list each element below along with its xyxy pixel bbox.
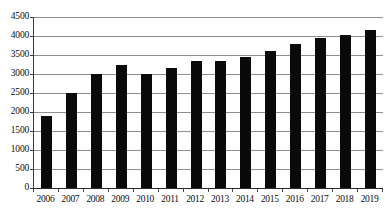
bar xyxy=(116,65,127,189)
x-tick-label: 2012 xyxy=(182,193,208,205)
x-tickmark xyxy=(158,189,159,192)
y-tick-label: 3500 xyxy=(0,50,29,60)
bar xyxy=(315,38,326,188)
y-axis: 050010001500200025003000350040004500 xyxy=(0,0,31,209)
bar xyxy=(41,116,52,188)
x-tickmark xyxy=(282,189,283,192)
y-tick-label: 500 xyxy=(0,164,29,174)
bar xyxy=(66,93,77,188)
x-tickmark xyxy=(307,189,308,192)
y-tick-label: 4500 xyxy=(0,12,29,22)
bar xyxy=(240,57,251,188)
y-tick-label: 2500 xyxy=(0,88,29,98)
x-tick-label: 2019 xyxy=(357,193,383,205)
bars-series xyxy=(34,17,383,188)
x-tickmark xyxy=(33,189,34,192)
x-tick-label: 2016 xyxy=(282,193,308,205)
bar xyxy=(191,61,202,188)
x-tick-label: 2014 xyxy=(232,193,258,205)
bar xyxy=(215,61,226,188)
x-tick-label: 2017 xyxy=(307,193,333,205)
x-tick-label: 2006 xyxy=(32,193,58,205)
x-tick-label: 2013 xyxy=(207,193,233,205)
x-tickmark xyxy=(208,189,209,192)
x-tickmark xyxy=(58,189,59,192)
x-tick-label: 2015 xyxy=(257,193,283,205)
x-tickmark xyxy=(133,189,134,192)
x-tickmark xyxy=(108,189,109,192)
y-tick-label: 0 xyxy=(0,183,29,193)
plot-area xyxy=(33,17,382,188)
x-tickmark xyxy=(332,189,333,192)
x-tickmark xyxy=(257,189,258,192)
chart-title xyxy=(0,0,385,5)
bar-chart-figure: 050010001500200025003000350040004500 200… xyxy=(0,0,385,209)
bar xyxy=(290,44,301,188)
x-tickmark xyxy=(83,189,84,192)
x-axis: 2006200720082009201020112012201320142015… xyxy=(33,193,385,207)
x-tick-label: 2008 xyxy=(82,193,108,205)
x-tickmark xyxy=(183,189,184,192)
y-tick-label: 1000 xyxy=(0,145,29,155)
x-tick-label: 2009 xyxy=(107,193,133,205)
x-tick-label: 2010 xyxy=(132,193,158,205)
bar xyxy=(91,74,102,188)
bar xyxy=(166,68,177,188)
x-tickmark xyxy=(232,189,233,192)
x-tickmark xyxy=(357,189,358,192)
bar xyxy=(365,30,376,188)
x-tickmark xyxy=(382,189,383,192)
x-tick-label: 2007 xyxy=(57,193,83,205)
y-tick-label: 3000 xyxy=(0,69,29,79)
bar xyxy=(340,35,351,188)
x-tick-label: 2018 xyxy=(332,193,358,205)
bar xyxy=(141,74,152,188)
y-tick-label: 2000 xyxy=(0,107,29,117)
x-tick-label: 2011 xyxy=(157,193,183,205)
y-tick-label: 1500 xyxy=(0,126,29,136)
bar xyxy=(265,51,276,188)
y-tick-label: 4000 xyxy=(0,31,29,41)
